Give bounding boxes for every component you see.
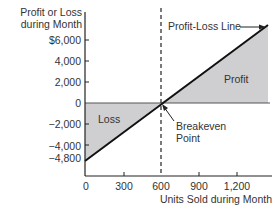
- loss-label: Loss: [98, 113, 120, 125]
- x-tick-label: 0: [83, 180, 89, 192]
- profit-loss-line-label: Profit-Loss Line: [168, 20, 241, 32]
- x-tick-label: 300: [115, 180, 133, 192]
- profit-label: Profit: [224, 73, 249, 85]
- y-tick-label: −4,000: [49, 140, 82, 152]
- x-axis-label: Units Sold during Month: [160, 193, 272, 205]
- breakeven-chart: Profit or Loss during Month $6,000 4,000…: [0, 0, 273, 205]
- y-tick-label: 4,000: [55, 55, 81, 67]
- y-tick-label: 2,000: [55, 76, 81, 88]
- y-axis-label-line1: Profit or Loss: [20, 6, 82, 18]
- y-tick-label: −4,800: [49, 152, 82, 164]
- y-axis-label-line2: during Month: [21, 18, 82, 30]
- y-tick-label: $6,000: [49, 34, 81, 46]
- breakeven-label-line1: Breakeven: [176, 120, 226, 132]
- y-tick-label: −2,000: [49, 118, 82, 130]
- x-tick-label: 900: [190, 180, 208, 192]
- y-tick-label: 0: [75, 97, 81, 109]
- breakeven-arrowhead-icon: [162, 104, 168, 111]
- x-tick-label: 1,200: [224, 180, 250, 192]
- x-tick-label: 600: [152, 180, 170, 192]
- breakeven-label-line2: Point: [176, 132, 200, 144]
